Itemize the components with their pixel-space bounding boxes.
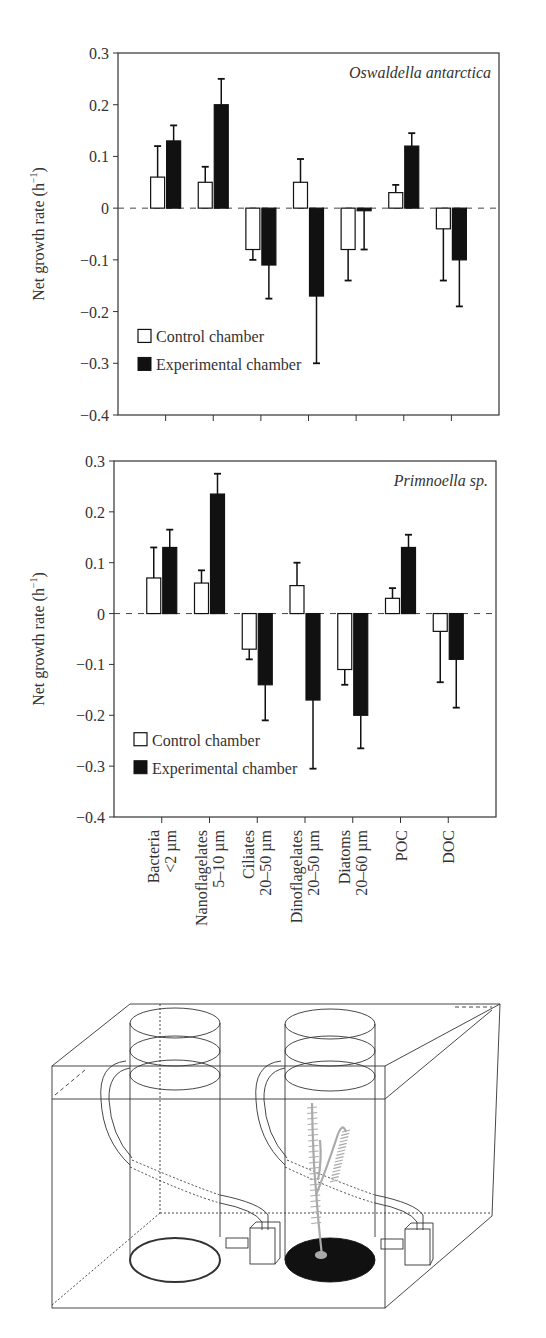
experimental-bar bbox=[357, 208, 371, 211]
experimental-bar bbox=[452, 208, 466, 260]
experimental-bar bbox=[167, 141, 181, 208]
legend-experimental-label: Experimental chamber bbox=[156, 356, 302, 374]
y-tick-label: 0.3 bbox=[85, 453, 105, 470]
experimental-bar bbox=[310, 208, 324, 296]
y-tick-label: 0 bbox=[101, 200, 109, 217]
experimental-chamber-bottom-coral bbox=[285, 1238, 375, 1282]
svg-text:20–50 µm: 20–50 µm bbox=[305, 829, 323, 895]
y-tick-label: −0.2 bbox=[76, 707, 105, 724]
experimental-bar bbox=[262, 208, 276, 265]
chart-primnoella: 0.30.20.10−0.1−0.2−0.3−0.4Net growth rat… bbox=[28, 453, 496, 826]
y-tick-label: 0 bbox=[97, 606, 105, 623]
y-tick-label: −0.1 bbox=[80, 252, 109, 269]
control-bar bbox=[433, 614, 447, 632]
control-bar bbox=[242, 614, 256, 650]
experimental-bar bbox=[354, 614, 368, 716]
chart-title: Oswaldella antarctica bbox=[349, 64, 491, 81]
y-axis-title: Net growth rate (h−1) bbox=[28, 167, 48, 301]
svg-text:Nanoflagelates: Nanoflagelates bbox=[193, 830, 211, 926]
control-bar bbox=[436, 208, 450, 229]
svg-text:<2 µm: <2 µm bbox=[162, 829, 180, 872]
chart-title: Primnoella sp. bbox=[393, 472, 488, 490]
y-tick-label: −0.1 bbox=[76, 656, 105, 673]
legend-experimental-swatch bbox=[138, 357, 151, 370]
y-tick-label: 0.1 bbox=[85, 555, 105, 572]
control-bar bbox=[147, 578, 161, 614]
legend: Control chamberExperimental chamber bbox=[134, 732, 298, 778]
control-bar bbox=[198, 182, 212, 208]
x-category-label: Ciliates20–50 µm bbox=[240, 829, 275, 895]
chamber-setup-diagram bbox=[52, 1004, 500, 1308]
x-category-label: DOC bbox=[440, 830, 457, 864]
svg-text:Diatoms: Diatoms bbox=[336, 830, 353, 884]
svg-text:Ciliates: Ciliates bbox=[240, 830, 257, 879]
legend-experimental-swatch bbox=[134, 761, 147, 774]
experimental-bar bbox=[306, 614, 320, 700]
svg-text:POC: POC bbox=[393, 830, 410, 861]
control-bar bbox=[294, 182, 308, 208]
svg-text:20–60 µm: 20–60 µm bbox=[353, 829, 371, 895]
control-bar bbox=[386, 598, 400, 613]
y-tick-label: −0.4 bbox=[76, 809, 105, 826]
experimental-bar bbox=[449, 614, 463, 660]
svg-text:DOC: DOC bbox=[440, 830, 457, 864]
y-tick-label: −0.3 bbox=[76, 758, 105, 775]
legend-control-swatch bbox=[138, 329, 151, 342]
y-tick-label: −0.2 bbox=[80, 304, 109, 321]
control-bar bbox=[290, 586, 304, 614]
svg-text:Net growth rate (h−1): Net growth rate (h−1) bbox=[28, 167, 48, 301]
control-bar bbox=[195, 583, 209, 614]
control-bar bbox=[389, 193, 403, 209]
control-chamber-bottom bbox=[130, 1238, 220, 1282]
y-tick-label: 0.3 bbox=[89, 45, 109, 62]
svg-text:Dinoflagelates: Dinoflagelates bbox=[288, 830, 306, 923]
y-tick-label: −0.4 bbox=[80, 407, 109, 424]
control-cylinder bbox=[101, 1008, 280, 1282]
experimental-bar bbox=[402, 547, 416, 613]
control-bar bbox=[246, 208, 260, 249]
x-category-label: POC bbox=[393, 830, 410, 861]
figure-canvas: 0.30.20.10−0.1−0.2−0.3−0.4Net growth rat… bbox=[0, 0, 546, 1338]
experimental-bar bbox=[214, 105, 228, 208]
legend: Control chamberExperimental chamber bbox=[138, 328, 302, 374]
x-category-label: Dinoflagelates20–50 µm bbox=[288, 829, 323, 923]
y-tick-label: −0.3 bbox=[80, 355, 109, 372]
control-bar bbox=[151, 177, 165, 208]
x-axis-category-labels: Bacteria<2 µmNanoflagelates5–10 µmCiliat… bbox=[145, 829, 458, 926]
experimental-cylinder bbox=[256, 1009, 433, 1282]
control-bar bbox=[341, 208, 355, 249]
x-category-label: Nanoflagelates5–10 µm bbox=[193, 829, 228, 926]
svg-text:Bacteria: Bacteria bbox=[145, 830, 162, 883]
y-tick-label: 0.2 bbox=[85, 504, 105, 521]
legend-control-label: Control chamber bbox=[156, 328, 265, 345]
legend-control-swatch bbox=[134, 733, 147, 746]
y-axis-title: Net growth rate (h−1) bbox=[28, 572, 48, 706]
legend-control-label: Control chamber bbox=[152, 732, 261, 749]
x-category-label: Diatoms20–60 µm bbox=[336, 829, 371, 895]
svg-text:Net growth rate (h−1): Net growth rate (h−1) bbox=[28, 572, 48, 706]
experimental-bar bbox=[211, 494, 225, 614]
experimental-bar bbox=[258, 614, 272, 685]
y-tick-label: 0.1 bbox=[89, 148, 109, 165]
svg-text:5–10 µm: 5–10 µm bbox=[210, 829, 228, 887]
legend-experimental-label: Experimental chamber bbox=[152, 760, 298, 778]
x-category-label: Bacteria<2 µm bbox=[145, 829, 180, 883]
control-bar bbox=[338, 614, 352, 670]
experimental-bar bbox=[405, 146, 419, 208]
experimental-bar bbox=[163, 547, 177, 613]
chart-oswaldella: 0.30.20.10−0.1−0.2−0.3−0.4Net growth rat… bbox=[28, 45, 499, 424]
svg-text:20–50 µm: 20–50 µm bbox=[257, 829, 275, 895]
y-tick-label: 0.2 bbox=[89, 97, 109, 114]
coral-specimen-icon bbox=[307, 1103, 350, 1258]
